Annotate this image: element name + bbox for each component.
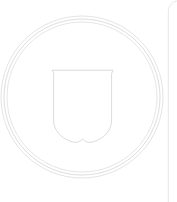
inner-ring-circle <box>7 22 157 172</box>
panel-right-edge-line <box>168 1 176 202</box>
outer-ring-circle <box>1 16 163 178</box>
heraldic-shield-icon <box>53 70 114 142</box>
emblem-artwork: Heraldic Shield Emblem Faint line-art cr… <box>0 0 177 202</box>
emblem-canvas: Heraldic Shield Emblem Faint line-art cr… <box>0 0 177 202</box>
middle-ring-circle <box>4 19 160 175</box>
